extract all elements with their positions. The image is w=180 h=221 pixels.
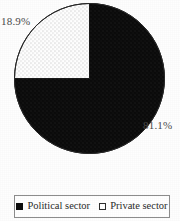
hollow-square-icon — [99, 203, 106, 210]
legend-item-private-sector: Private sector — [99, 201, 167, 212]
slice-label-private-sector: 18.9% — [1, 15, 30, 27]
slice-label-political-sector: 81.1% — [143, 119, 172, 131]
legend-item-political-sector: Political sector — [16, 201, 90, 212]
legend-label-political-sector: Political sector — [27, 201, 90, 212]
pie-chart-figure: 18.9% 81.1% Political sector Private sec… — [0, 0, 180, 221]
chart-legend: Political sector Private sector — [14, 195, 170, 218]
filled-square-icon — [16, 203, 23, 210]
legend-label-private-sector: Private sector — [110, 201, 167, 212]
pie-svg — [14, 2, 165, 155]
pie-chart-graphic — [14, 2, 165, 155]
